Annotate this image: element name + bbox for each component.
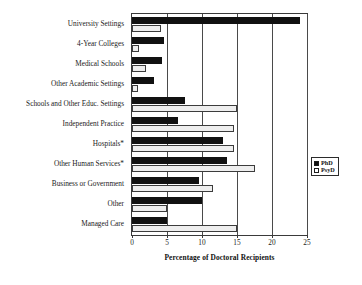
y-axis-labels: University Settings 4-Year Colleges Medi…	[0, 13, 127, 236]
bar-group	[132, 74, 307, 94]
y-axis-tick-label: Other	[107, 199, 124, 208]
x-axis-tick-mark	[307, 235, 308, 238]
y-axis-tick-label: Managed Care	[81, 219, 124, 228]
bar-psyd	[132, 165, 255, 172]
bar-group	[132, 195, 307, 215]
bar-group	[132, 155, 307, 175]
x-axis-tick-mark	[237, 235, 238, 238]
bar-phd	[132, 17, 300, 24]
bar-group	[132, 54, 307, 74]
y-axis-tick-label: 4-Year Colleges	[77, 39, 124, 48]
y-axis-tick-label: Medical Schools	[75, 59, 124, 68]
y-axis-tick-label: Other Academic Settings	[51, 79, 124, 88]
y-axis-tick-label: Schools and Other Educ. Settings	[26, 99, 124, 108]
bar-psyd	[132, 85, 138, 92]
bar-group	[132, 14, 307, 34]
x-axis-title: Percentage of Doctoral Recipients	[131, 253, 308, 262]
legend-item-psyd: PsyD	[314, 167, 335, 173]
bar-phd	[132, 117, 178, 124]
legend-label: PsyD	[321, 167, 335, 173]
bar-group	[132, 135, 307, 155]
x-axis-tick-label: 20	[268, 238, 275, 247]
bar-psyd	[132, 65, 146, 72]
bar-phd	[132, 177, 199, 184]
legend-swatch-open-square-icon	[314, 168, 319, 173]
x-axis-tick-label: 10	[198, 238, 205, 247]
bar-group	[132, 215, 307, 235]
x-axis-tick-label: 0	[130, 238, 134, 247]
bar-psyd	[132, 105, 237, 112]
bar-psyd	[132, 225, 237, 232]
bar-group	[132, 114, 307, 134]
x-axis-tick-mark	[167, 235, 168, 238]
bar-chart: University Settings 4-Year Colleges Medi…	[0, 0, 362, 285]
legend-swatch-filled-square-icon	[314, 161, 319, 166]
bar-psyd	[132, 185, 213, 192]
bar-psyd	[132, 205, 167, 212]
x-axis-tick-label: 15	[233, 238, 240, 247]
gridline	[307, 14, 308, 235]
bar-rows	[132, 14, 307, 235]
bar-psyd	[132, 125, 234, 132]
y-axis-tick-label: Hospitals*	[93, 139, 124, 148]
x-axis-tick-mark	[272, 235, 273, 238]
x-axis-tick-mark	[132, 235, 133, 238]
bar-phd	[132, 157, 227, 164]
bar-phd	[132, 137, 223, 144]
x-axis-tick-label: 25	[303, 238, 310, 247]
bar-psyd	[132, 45, 139, 52]
x-axis-tick-label: 5	[165, 238, 169, 247]
bar-phd	[132, 77, 154, 84]
x-axis-ticks: 0510152025	[131, 238, 308, 250]
y-axis-tick-label: University Settings	[68, 19, 124, 28]
plot-area	[131, 13, 308, 236]
bar-psyd	[132, 25, 161, 32]
bar-phd	[132, 37, 164, 44]
bar-group	[132, 175, 307, 195]
bar-phd	[132, 57, 162, 64]
y-axis-tick-label: Independent Practice	[63, 119, 124, 128]
bar-group	[132, 94, 307, 114]
chart-legend: PhD PsyD	[311, 157, 339, 176]
bar-phd	[132, 197, 202, 204]
bar-group	[132, 34, 307, 54]
bar-psyd	[132, 145, 234, 152]
y-axis-tick-label: Other Human Services*	[54, 159, 124, 168]
bar-phd	[132, 97, 185, 104]
x-axis-tick-mark	[202, 235, 203, 238]
y-axis-tick-label: Business or Government	[52, 179, 124, 188]
bar-phd	[132, 217, 167, 224]
